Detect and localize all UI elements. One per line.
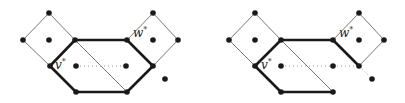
label-v-star: v* — [55, 57, 66, 72]
nodes — [20, 10, 181, 95]
diagram-canvas: v* w* v* w* — [0, 0, 405, 103]
nodes — [226, 10, 387, 95]
left-panel: v* w* — [20, 10, 181, 95]
label-v-star: v* — [261, 57, 272, 72]
label-w-star: w* — [339, 25, 353, 40]
label-w-star: w* — [133, 25, 147, 40]
right-panel: v* w* — [226, 10, 387, 95]
